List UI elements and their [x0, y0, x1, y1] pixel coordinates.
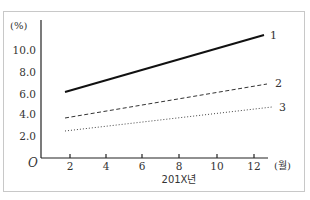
- series-2-label: 2: [275, 77, 282, 90]
- series-3-label: 3: [279, 101, 286, 114]
- x-tick-label: 8: [176, 160, 183, 172]
- x-axis-title: 201X년: [162, 174, 197, 185]
- y-tick-label: 6.0: [19, 88, 36, 100]
- y-axis-unit: (%): [10, 20, 27, 31]
- origin-label: O: [28, 156, 38, 170]
- series-3-line: [65, 107, 272, 131]
- x-tick-label: 2: [67, 160, 74, 172]
- x-axis-unit: (월): [274, 160, 291, 171]
- y-tick-label: 8.0: [19, 66, 36, 78]
- x-tick-label: 6: [139, 160, 146, 172]
- series-2-line: [65, 84, 267, 118]
- series-1-line: [65, 35, 264, 92]
- series-1-label: 1: [270, 29, 277, 42]
- y-tick-label: 2.0: [19, 130, 36, 142]
- x-tick-label: 12: [247, 160, 260, 172]
- y-tick-label: 4.0: [19, 108, 36, 120]
- x-tick-label: 10: [210, 160, 223, 172]
- y-tick-label: 10.0: [13, 44, 36, 56]
- x-tick-label: 4: [103, 160, 110, 172]
- line-chart: (%) 10.0 8.0 6.0 4.0 2.0 O 2 4 6 8 10 12…: [0, 0, 310, 200]
